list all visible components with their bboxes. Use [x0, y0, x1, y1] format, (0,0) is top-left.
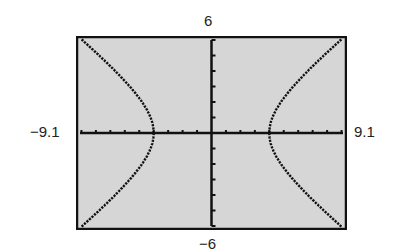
hyperbola-plot	[76, 36, 347, 230]
xmin-label: −9.1	[30, 124, 60, 139]
xmax-label: 9.1	[354, 124, 375, 139]
calculator-graph-screen	[76, 36, 347, 230]
ymin-label: −6	[199, 236, 216, 251]
ymax-label: 6	[204, 13, 212, 28]
